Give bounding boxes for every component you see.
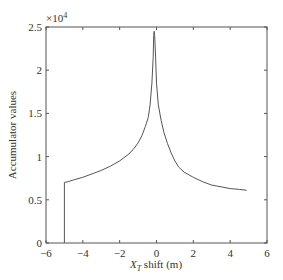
x-tick-label: 2 [191, 247, 197, 259]
x-tick-label: 6 [264, 247, 270, 259]
y-tick-label: 1.5 [28, 107, 42, 119]
plot-area [46, 27, 267, 243]
chart: −6−4−20246 00.511.522.5 ×104 XT shift (m… [0, 0, 283, 280]
x-axis-label: XT shift (m) [129, 258, 182, 273]
y-tick-label: 2 [37, 64, 43, 76]
y-tick-label: 2.5 [28, 21, 42, 33]
x-tick-label: −2 [114, 247, 126, 259]
y-multiplier: ×104 [46, 11, 67, 24]
y-tick-label: 0 [37, 237, 43, 249]
x-tick-label: 4 [227, 247, 233, 259]
x-tick-label: −4 [77, 247, 89, 259]
y-tick-label: 0.5 [28, 194, 42, 206]
y-tick-label: 1 [37, 151, 43, 163]
y-axis-label: Accumulator values [6, 91, 18, 179]
